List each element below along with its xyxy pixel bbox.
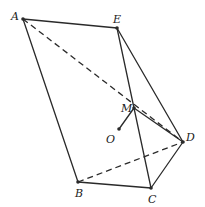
- point-D: [181, 140, 185, 144]
- label-D: D: [185, 131, 195, 144]
- edge-ED: [117, 28, 183, 142]
- edge-CD: [151, 142, 183, 188]
- label-B: B: [74, 187, 83, 200]
- edge-BC: [78, 182, 151, 188]
- point-M: [132, 106, 136, 110]
- edge-BD-hidden: [78, 142, 183, 182]
- geometry-diagram: A E M O D B C: [0, 0, 205, 207]
- label-E: E: [112, 13, 121, 26]
- edge-AB: [23, 19, 78, 182]
- label-A: A: [10, 10, 19, 23]
- edge-AD-hidden: [23, 19, 183, 142]
- point-C: [149, 186, 153, 190]
- label-M: M: [120, 102, 133, 115]
- point-B: [76, 180, 80, 184]
- point-A: [21, 17, 25, 21]
- label-C: C: [148, 193, 157, 206]
- point-O: [117, 127, 121, 131]
- point-E: [115, 26, 119, 30]
- label-O: O: [106, 133, 115, 146]
- edge-AE: [23, 19, 117, 28]
- diagram-svg: A E M O D B C: [0, 0, 205, 207]
